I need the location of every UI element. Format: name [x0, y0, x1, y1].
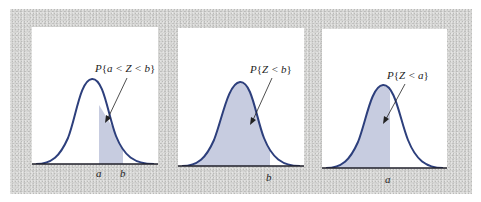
panel-a-lt-z-lt-b: P{a < Z < b} a b: [32, 27, 158, 179]
axis-label-a: a: [96, 167, 102, 179]
panel-z-lt-a: P{Z < a} a: [322, 29, 447, 185]
probability-label: P{a < Z < b}: [94, 62, 155, 74]
probability-label: P{Z < a}: [386, 69, 429, 81]
probability-label: P{Z < b}: [249, 63, 292, 75]
axis-label-b: b: [120, 167, 126, 179]
panel-background: [32, 27, 158, 164]
normal-distribution-diagrams: P{a < Z < b} a b P{Z < b} b P{Z < a} a: [0, 0, 481, 202]
axis-label-a: a: [385, 173, 391, 185]
axis-label-b: b: [266, 171, 272, 183]
panel-z-lt-b: P{Z < b} b: [178, 28, 304, 183]
